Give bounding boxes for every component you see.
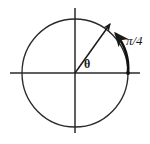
theta-angle-label: θ [84, 58, 90, 70]
unit-circle-canvas [0, 0, 150, 144]
angle-measure-label: π/4 [126, 34, 143, 47]
terminal-ray [75, 24, 110, 73]
arc-start-point [126, 71, 130, 75]
unit-circle-figure: θ π/4 [0, 0, 150, 144]
